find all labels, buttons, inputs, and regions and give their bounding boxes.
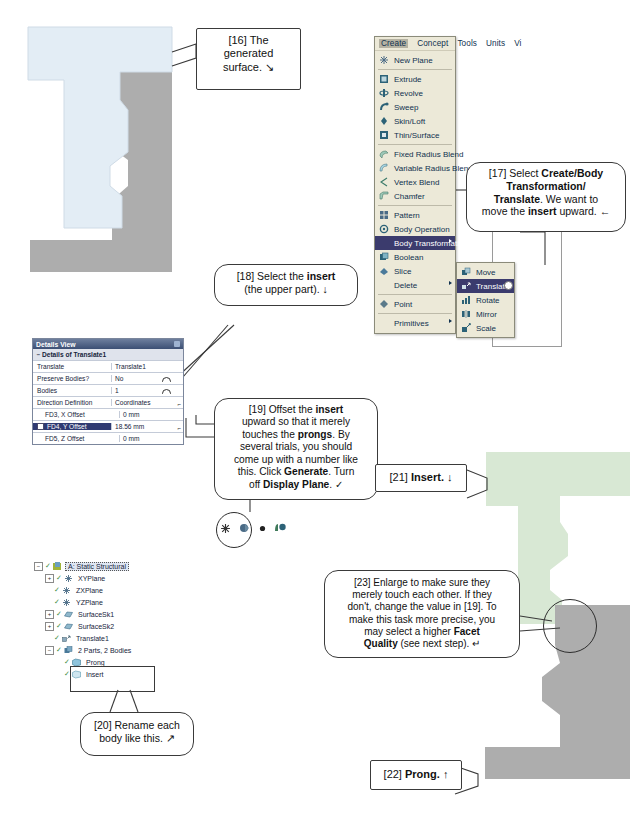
callout-20-l1: Rename each (115, 719, 180, 731)
submenu-item-rotate[interactable]: Rotate (457, 293, 514, 307)
submenu-item-mirror-label: Mirror (476, 310, 497, 319)
callout-17-l1pre: Select (509, 167, 541, 179)
surface-icon (64, 622, 73, 631)
slice-icon (379, 266, 389, 276)
submenu-item-move[interactable]: Move (457, 265, 514, 279)
callout-23-l3: don't, change the value in [19]. To (347, 601, 496, 612)
callout-22-text: Prong. (405, 768, 440, 780)
details-row-value: Coordinates (115, 399, 151, 406)
expander-icon[interactable]: + (45, 610, 54, 619)
details-row-x-offset[interactable]: FD3, X Offset 0 mm (33, 409, 183, 421)
check-icon: ✓ (45, 562, 51, 570)
callout-23-l5pre: may select a higher (364, 626, 454, 637)
menu-item-slice[interactable]: Slice (375, 264, 455, 278)
menu-item-point[interactable]: Point (375, 297, 455, 311)
create-menu-window[interactable]: Create Concept Tools Units Vi New Plane … (374, 36, 456, 334)
tree-node-zxplane[interactable]: ✓ ZXPlane (34, 584, 194, 596)
details-view-title: Details View (36, 341, 76, 348)
expander-icon[interactable]: + (45, 622, 54, 631)
tree-node-label: SurfaceSk1 (76, 611, 116, 618)
skinloft-icon (379, 116, 389, 126)
menu-item-thin-surface[interactable]: Thin/Surface (375, 128, 455, 142)
var-blend-icon (379, 163, 389, 173)
body-operation-icon (379, 224, 389, 234)
callout-22: [22] Prong. ↑ (370, 760, 462, 790)
details-row-value-wrap: Coordinates ⌐ (112, 399, 183, 406)
tree-node-static-structural[interactable]: − ✓ A: Static Structural (34, 560, 194, 572)
parameter-checkbox[interactable] (37, 423, 44, 430)
menu-item-vertex-blend-label: Vertex Blend (394, 178, 439, 187)
tree-node-surfacesk2[interactable]: + ✓ SurfaceSk2 (34, 620, 194, 632)
callout-16: [16] The generated surface. ↘ (196, 28, 301, 90)
menu-item-variable-radius-blend[interactable]: Variable Radius Blend (375, 161, 455, 175)
callout-20: [20] Rename each body like this. ↗ (80, 712, 194, 756)
translate-icon (461, 281, 471, 291)
expander-icon[interactable]: + (45, 574, 54, 583)
details-row-name: Preserve Bodies? (33, 375, 112, 382)
tree-node-xyplane[interactable]: + ✓ XYPlane (34, 572, 194, 584)
callout-20-tag: [20] (94, 719, 112, 731)
details-row-y-offset[interactable]: FD4, Y Offset 18.56 mm ⌐ (33, 421, 183, 433)
collapse-icon[interactable]: − (35, 352, 42, 358)
details-row-bodies[interactable]: Bodies 1 (33, 385, 183, 397)
menu-item-boolean[interactable]: Boolean (375, 250, 455, 264)
tree-node-label: Translate1 (74, 635, 111, 642)
menubar-item-tools[interactable]: Tools (457, 39, 477, 48)
menu-item-fixed-radius-blend[interactable]: Fixed Radius Blend (375, 147, 455, 161)
menu-item-extrude[interactable]: Extrude (375, 72, 455, 86)
menubar-item-view[interactable]: Vi (514, 39, 521, 48)
tree-node-yzplane[interactable]: ✓ YZPlane (34, 596, 194, 608)
menu-item-chamfer[interactable]: Chamfer (375, 189, 455, 203)
body-transformation-submenu[interactable]: Move Translate Rotate Mirror Scale (456, 262, 515, 338)
menu-item-new-plane[interactable]: New Plane (375, 53, 455, 67)
callout-19: [19] Offset the insert upward so that it… (214, 398, 378, 500)
menu-item-fixed-radius-blend-label: Fixed Radius Blend (394, 150, 463, 159)
details-row-z-offset[interactable]: FD5, Z Offset 0 mm (33, 433, 183, 444)
details-row-translate[interactable]: Translate Translate1 (33, 361, 183, 373)
details-section-header[interactable]: − Details of Translate1 (33, 349, 183, 361)
tree-node-label: XYPlane (76, 575, 107, 582)
menu-item-delete[interactable]: Delete (375, 278, 455, 292)
menu-item-body-operation[interactable]: Body Operation (375, 222, 455, 236)
dropdown-indicator-icon[interactable]: ⌐ (177, 425, 181, 430)
tree-node-translate1[interactable]: ✓ Translate1 (34, 632, 194, 644)
menu-item-pattern[interactable]: Pattern (375, 208, 455, 222)
surface-icon (64, 610, 73, 619)
callout-19-l3pre: touches the (242, 429, 298, 440)
menu-item-skin-loft[interactable]: Skin/Loft (375, 114, 455, 128)
menubar-item-units[interactable]: Units (486, 39, 505, 48)
sweep-icon (379, 102, 389, 112)
chevron-right-icon (449, 239, 452, 243)
menubar-item-concept[interactable]: Concept (417, 39, 448, 48)
chevron-right-icon (449, 319, 452, 323)
dot-icon[interactable] (259, 525, 266, 532)
display-plane-icon[interactable] (274, 522, 287, 534)
details-row-name: FD4, Y Offset (47, 423, 87, 430)
menu-item-boolean-label: Boolean (394, 253, 423, 262)
submenu-item-mirror[interactable]: Mirror (457, 307, 514, 321)
menu-separator (378, 205, 452, 206)
dropdown-indicator-icon[interactable]: ⌐ (177, 401, 181, 406)
pin-icon[interactable] (174, 341, 180, 347)
menu-item-body-transformation[interactable]: Body Transformation (375, 236, 455, 250)
tree-node-surfacesk1[interactable]: + ✓ SurfaceSk1 (34, 608, 194, 620)
model-tree[interactable]: − ✓ A: Static Structural + ✓ XYPlane ✓ Z… (34, 560, 194, 680)
create-menu-list[interactable]: New Plane Extrude Revolve Sweep Skin/Lof… (375, 51, 455, 333)
callout-23-l5b: Facet (454, 626, 480, 637)
callout-17-l3post: . We want to (540, 193, 598, 205)
details-row-preserve-bodies[interactable]: Preserve Bodies? No (33, 373, 183, 385)
menu-item-revolve[interactable]: Revolve (375, 86, 455, 100)
tree-node-parts-bodies[interactable]: − ✓ 2 Parts, 2 Bodies (34, 644, 194, 656)
menu-item-primitives[interactable]: Primitives (375, 316, 455, 330)
menubar-item-create[interactable]: Create (379, 39, 408, 48)
callout-23: [23] Enlarge to make sure they merely to… (324, 570, 520, 658)
menu-item-sweep[interactable]: Sweep (375, 100, 455, 114)
details-row-name: Translate (33, 363, 112, 370)
menu-item-vertex-blend[interactable]: Vertex Blend (375, 175, 455, 189)
submenu-item-scale[interactable]: Scale (457, 321, 514, 335)
menu-bar[interactable]: Create Concept Tools Units Vi (375, 37, 455, 51)
expander-icon[interactable]: − (45, 646, 54, 655)
details-row-direction-definition[interactable]: Direction Definition Coordinates ⌐ (33, 397, 183, 409)
expander-icon[interactable]: − (34, 562, 43, 571)
details-view-panel[interactable]: Details View − Details of Translate1 Tra… (32, 338, 184, 445)
